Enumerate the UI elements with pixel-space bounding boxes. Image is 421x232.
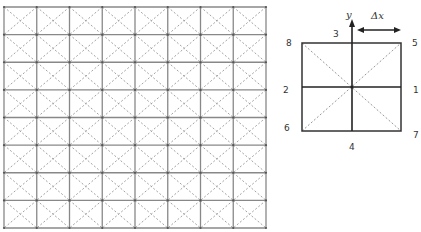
delta-x-right-arrow-head-icon	[394, 27, 401, 33]
lattice-node	[3, 172, 5, 174]
lattice-grid	[3, 6, 267, 229]
lattice-node	[232, 172, 234, 174]
node-label-3: 3	[333, 29, 339, 39]
lattice-node	[232, 227, 234, 229]
lattice-node	[134, 89, 136, 91]
lattice-node	[3, 6, 5, 8]
lattice-node	[232, 116, 234, 118]
lattice-node	[36, 34, 38, 36]
node-label-8: 8	[286, 38, 292, 48]
lattice-node	[167, 116, 169, 118]
lattice-node	[199, 116, 201, 118]
lattice-node	[68, 116, 70, 118]
lattice-node	[101, 89, 103, 91]
lattice-node	[36, 89, 38, 91]
lattice-node	[68, 61, 70, 63]
node-label-4: 4	[349, 142, 355, 152]
lattice-node	[3, 199, 5, 201]
lattice-node	[232, 199, 234, 201]
lattice-node	[101, 6, 103, 8]
lattice-node	[101, 172, 103, 174]
center-node	[351, 86, 354, 89]
lattice-node	[199, 144, 201, 146]
lattice-node	[68, 34, 70, 36]
lattice-node	[134, 144, 136, 146]
lattice-node	[36, 61, 38, 63]
lattice-node	[167, 61, 169, 63]
node-label-6: 6	[284, 123, 290, 133]
lattice-node	[36, 6, 38, 8]
lattice-node	[265, 116, 267, 118]
y-arrow-head-icon	[349, 19, 355, 27]
lattice-node	[265, 6, 267, 8]
node-label-1: 1	[413, 85, 419, 95]
lattice-node	[3, 116, 5, 118]
lattice-node	[36, 116, 38, 118]
lattice-node	[134, 116, 136, 118]
lattice-node	[167, 144, 169, 146]
lattice-node	[101, 61, 103, 63]
lattice-node	[3, 61, 5, 63]
lattice-node	[68, 172, 70, 174]
lattice-node	[199, 199, 201, 201]
lattice-node	[167, 6, 169, 8]
lattice-node	[134, 34, 136, 36]
lattice-node	[199, 34, 201, 36]
diagram-canvas: y Δx 3 8 5 2 1 6 7 4	[0, 0, 421, 232]
lattice-node	[232, 144, 234, 146]
lattice-node	[167, 89, 169, 91]
lattice-node	[68, 199, 70, 201]
y-axis-label: y	[345, 9, 352, 20]
lattice-node	[36, 199, 38, 201]
lattice-node	[134, 199, 136, 201]
lattice-node	[134, 6, 136, 8]
lattice-node	[265, 227, 267, 229]
unit-cell: y Δx 3 8 5 2 1 6 7 4	[283, 9, 419, 152]
node-label-7: 7	[413, 130, 419, 140]
lattice-node	[134, 61, 136, 63]
lattice-node	[3, 227, 5, 229]
lattice-node	[36, 227, 38, 229]
lattice-node	[232, 6, 234, 8]
lattice-node	[101, 144, 103, 146]
lattice-node	[3, 34, 5, 36]
node-label-2: 2	[283, 85, 289, 95]
lattice-node	[68, 227, 70, 229]
lattice-node	[101, 116, 103, 118]
lattice-node	[101, 34, 103, 36]
lattice-node	[232, 34, 234, 36]
lattice-node	[134, 227, 136, 229]
delta-x-label: Δx	[370, 10, 384, 21]
delta-x-left-arrow-head-icon	[357, 27, 364, 33]
lattice-node	[101, 199, 103, 201]
lattice-node	[68, 144, 70, 146]
lattice-node	[199, 227, 201, 229]
lattice-node	[68, 6, 70, 8]
node-label-5: 5	[412, 38, 418, 48]
lattice-node	[199, 61, 201, 63]
lattice-node	[3, 89, 5, 91]
lattice-node	[3, 144, 5, 146]
lattice-node	[167, 227, 169, 229]
lattice-node	[134, 172, 136, 174]
lattice-node	[232, 61, 234, 63]
lattice-node	[101, 227, 103, 229]
lattice-node	[167, 172, 169, 174]
lattice-node	[265, 61, 267, 63]
lattice-node	[265, 89, 267, 91]
lattice-node	[199, 172, 201, 174]
lattice-node	[265, 199, 267, 201]
lattice-node	[199, 6, 201, 8]
lattice-node	[36, 172, 38, 174]
lattice-node	[167, 34, 169, 36]
lattice-node	[265, 172, 267, 174]
lattice-node	[199, 89, 201, 91]
lattice-node	[265, 144, 267, 146]
lattice-node	[265, 34, 267, 36]
lattice-node	[68, 89, 70, 91]
lattice-node	[36, 144, 38, 146]
lattice-node	[167, 199, 169, 201]
lattice-node	[232, 89, 234, 91]
